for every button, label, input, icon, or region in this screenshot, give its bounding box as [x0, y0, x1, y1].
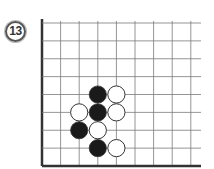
white-stone [108, 140, 125, 157]
black-stone [89, 86, 106, 103]
black-stone [89, 104, 106, 121]
black-stone [71, 122, 88, 139]
black-stone [89, 140, 106, 157]
white-stone [108, 104, 125, 121]
white-stone [108, 86, 125, 103]
board-stones [71, 86, 125, 157]
white-stone [71, 104, 88, 121]
go-board [0, 0, 214, 169]
white-stone [89, 122, 106, 139]
